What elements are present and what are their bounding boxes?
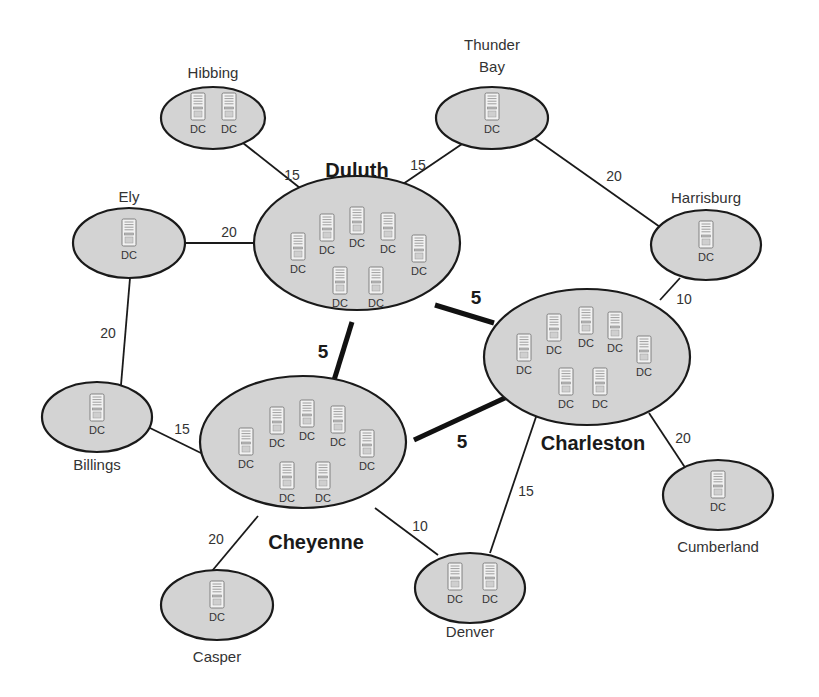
site-ely[interactable]: DC: [73, 208, 185, 278]
link-cost-label: 15: [174, 421, 190, 437]
site-name-label: Casper: [193, 648, 241, 665]
domain-controller[interactable]: DC: [484, 93, 500, 135]
site-name-label: Ely: [119, 188, 140, 205]
site-thunder-bay[interactable]: DC: [436, 87, 548, 149]
domain-controller[interactable]: DC: [578, 307, 594, 349]
link-line[interactable]: [534, 138, 660, 227]
server-tower-icon: [316, 462, 330, 489]
site-hibbing[interactable]: DCDC: [161, 87, 265, 149]
server-tower-icon: [381, 213, 395, 240]
dc-label: DC: [319, 244, 335, 256]
site-name-label: Billings: [73, 456, 121, 473]
link-cost-label: 20: [100, 325, 116, 341]
site-harrisburg[interactable]: DC: [651, 210, 761, 280]
site-link-duluth-charleston[interactable]: [435, 305, 494, 323]
domain-controller[interactable]: DC: [636, 336, 652, 378]
site-boundary[interactable]: [161, 87, 265, 149]
server-tower-icon: [350, 207, 364, 234]
dc-label: DC: [330, 436, 346, 448]
dc-label: DC: [315, 492, 331, 504]
domain-controller[interactable]: DC: [89, 394, 105, 436]
site-boundary[interactable]: [200, 376, 406, 508]
dc-label: DC: [516, 364, 532, 376]
server-tower-icon: [699, 221, 713, 248]
dc-label: DC: [411, 265, 427, 277]
dc-label: DC: [698, 251, 714, 263]
server-tower-icon: [320, 214, 334, 241]
server-tower-icon: [517, 334, 531, 361]
domain-controller[interactable]: DC: [121, 219, 137, 261]
domain-controller[interactable]: DC: [315, 462, 331, 504]
domain-controller[interactable]: DC: [319, 214, 335, 256]
domain-controller[interactable]: DC: [190, 93, 206, 135]
domain-controller[interactable]: DC: [221, 93, 237, 135]
domain-controller[interactable]: DC: [269, 407, 285, 449]
domain-controller[interactable]: DC: [332, 267, 348, 309]
dc-label: DC: [368, 297, 384, 309]
domain-controller[interactable]: DC: [710, 471, 726, 513]
site-denver[interactable]: DCDC: [415, 553, 525, 623]
dc-label: DC: [190, 123, 206, 135]
site-name-label: Bay: [479, 58, 505, 75]
server-tower-icon: [360, 430, 374, 457]
dc-label: DC: [89, 424, 105, 436]
site-duluth[interactable]: DCDCDCDCDCDCDC: [254, 176, 460, 310]
site-name-label: Harrisburg: [671, 189, 741, 206]
site-cheyenne[interactable]: DCDCDCDCDCDCDC: [200, 376, 406, 508]
domain-controller[interactable]: DC: [592, 368, 608, 410]
dc-label: DC: [290, 263, 306, 275]
dc-label: DC: [447, 593, 463, 605]
domain-controller[interactable]: DC: [279, 462, 295, 504]
domain-controller[interactable]: DC: [558, 368, 574, 410]
server-tower-icon: [483, 563, 497, 590]
link-line[interactable]: [121, 278, 130, 385]
server-tower-icon: [485, 93, 499, 120]
domain-controller[interactable]: DC: [349, 207, 365, 249]
dc-label: DC: [546, 344, 562, 356]
domain-controller[interactable]: DC: [299, 400, 315, 442]
dc-label: DC: [710, 501, 726, 513]
site-link-thunder-bay-harrisburg[interactable]: [534, 138, 660, 227]
domain-controller[interactable]: DC: [411, 235, 427, 277]
site-name-label: Cheyenne: [268, 531, 364, 553]
domain-controller[interactable]: DC: [516, 334, 532, 376]
site-billings[interactable]: DC: [42, 382, 152, 452]
link-line[interactable]: [435, 305, 494, 323]
server-tower-icon: [448, 563, 462, 590]
link-cost-label: 5: [457, 431, 468, 452]
dc-label: DC: [359, 460, 375, 472]
site-link-ely-billings[interactable]: [121, 278, 130, 385]
dc-label: DC: [209, 611, 225, 623]
site-link-cheyenne-denver[interactable]: [375, 508, 438, 555]
domain-controller[interactable]: DC: [447, 563, 463, 605]
domain-controller[interactable]: DC: [546, 314, 562, 356]
server-tower-icon: [300, 400, 314, 427]
dc-label: DC: [380, 243, 396, 255]
domain-controller[interactable]: DC: [238, 428, 254, 470]
site-casper[interactable]: DC: [161, 570, 273, 640]
link-cost-label: 15: [518, 483, 534, 499]
link-line[interactable]: [375, 508, 438, 555]
domain-controller[interactable]: DC: [607, 312, 623, 354]
domain-controller[interactable]: DC: [368, 267, 384, 309]
domain-controller[interactable]: DC: [290, 233, 306, 275]
domain-controller[interactable]: DC: [209, 581, 225, 623]
link-cost-label: 20: [606, 168, 622, 184]
server-tower-icon: [579, 307, 593, 334]
server-tower-icon: [593, 368, 607, 395]
site-charleston[interactable]: DCDCDCDCDCDCDC: [484, 289, 690, 425]
domain-controller[interactable]: DC: [330, 406, 346, 448]
server-tower-icon: [412, 235, 426, 262]
server-tower-icon: [191, 93, 205, 120]
site-cumberland[interactable]: DC: [663, 460, 773, 530]
dc-label: DC: [484, 123, 500, 135]
link-cost-label: 5: [318, 341, 329, 362]
domain-controller[interactable]: DC: [380, 213, 396, 255]
site-name-label: Cumberland: [677, 538, 759, 555]
link-cost-label: 15: [410, 157, 426, 173]
domain-controller[interactable]: DC: [359, 430, 375, 472]
domain-controller[interactable]: DC: [482, 563, 498, 605]
site-boundary[interactable]: [415, 553, 525, 623]
domain-controller[interactable]: DC: [698, 221, 714, 263]
dc-label: DC: [349, 237, 365, 249]
